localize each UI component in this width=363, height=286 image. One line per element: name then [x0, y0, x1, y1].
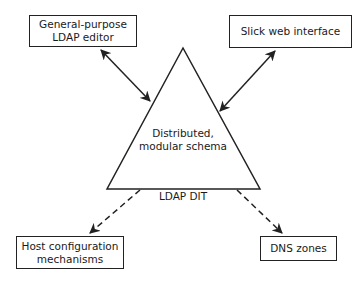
node-ldap-editor: General-purpose LDAP editor	[29, 15, 137, 47]
node-host-config-line1: Host configuration	[22, 240, 119, 253]
ldap-dit-caption: LDAP DIT	[143, 190, 223, 203]
node-web-interface-label: Slick web interface	[241, 25, 341, 38]
triangle-label-line1: Distributed,	[133, 127, 233, 140]
triangle-label-line2: modular schema	[133, 140, 233, 153]
node-host-config: Host configuration mechanisms	[16, 236, 124, 269]
node-ldap-editor-line1: General-purpose	[39, 18, 127, 31]
node-host-config-line2: mechanisms	[22, 253, 119, 266]
ldap-dit-triangle	[107, 48, 260, 189]
node-dns-zones-label: DNS zones	[270, 242, 326, 255]
arrow-editor	[101, 50, 150, 101]
node-web-interface: Slick web interface	[229, 15, 352, 48]
node-ldap-editor-line2: LDAP editor	[39, 31, 127, 44]
node-dns-zones: DNS zones	[260, 236, 337, 261]
triangle-label: Distributed, modular schema	[133, 127, 233, 153]
arrow-dns-zones	[237, 190, 282, 233]
arrow-host-config	[90, 190, 140, 233]
arrow-web-interface	[220, 51, 275, 111]
